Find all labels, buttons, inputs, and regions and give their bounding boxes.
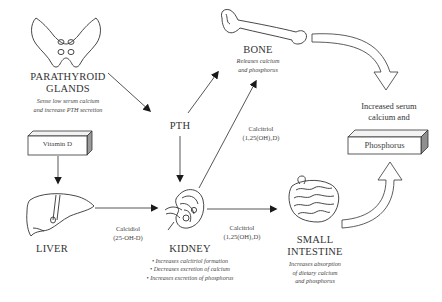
parathyroid-note: Sense low serum calcium and increase PTH… <box>8 97 128 114</box>
outcome-line1: Increased serum <box>344 101 434 112</box>
hollow-arrow-bone-to-outcome <box>312 34 398 90</box>
small-intestine-note-line2: of dietary calcium <box>275 269 355 278</box>
bone-note: Releases calcium and phosphorus <box>220 57 296 74</box>
kidney-title: KIDNEY <box>155 243 225 255</box>
kidney-effect-item: • Decreases excretion of calcium <box>130 265 250 273</box>
edge-label-kidney-to-intestine: Calcitriol (1,25(OH)₂D) <box>213 223 271 241</box>
parathyroid-title: PARATHYROID GLANDS <box>12 71 124 95</box>
kidney-icon <box>165 190 204 230</box>
liver-title: LIVER <box>22 243 82 255</box>
edge-label-line2: (1,25(OH)₂D) <box>232 133 290 142</box>
bone-note-line2: and phosphorus <box>220 66 296 75</box>
edge-label-line1: Calcidiol <box>103 224 153 233</box>
parathyroid-title-line1: PARATHYROID <box>12 71 124 83</box>
edge-label-line2: (1,25(OH)₂D) <box>213 232 271 241</box>
outcome-line2: calcium and <box>344 112 434 123</box>
outcome-text: Increased serum calcium and <box>344 101 434 123</box>
parathyroid-note-line1: Sense low serum calcium <box>8 97 128 106</box>
kidney-effect-item: • Increases excretion of phosphorus <box>130 274 250 282</box>
edge-label-line1: Calcitriol <box>213 223 271 232</box>
kidney-effect-item: • Increases calcitriol formation <box>130 257 250 265</box>
parathyroid-title-line2: GLANDS <box>12 83 124 95</box>
parathyroid-note-line2: and increase PTH secretion <box>8 106 128 115</box>
arrow-pth-to-bone <box>188 72 218 113</box>
vitamin-d-label: Vitamin D <box>28 140 87 148</box>
small-intestine-title: SMALL INTESTINE <box>280 234 350 258</box>
edge-label-line2: (25-OH-D) <box>103 233 153 242</box>
small-intestine-note-line3: and phosphorus <box>275 277 355 286</box>
kidney-effects-list: • Increases calcitriol formation • Decre… <box>130 257 250 282</box>
bone-note-line1: Releases calcium <box>220 57 296 66</box>
phosphorus-label: Phosphorus <box>348 140 421 150</box>
small-intestine-title-line1: SMALL <box>280 234 350 246</box>
hollow-arrow-intestine-to-outcome <box>342 162 402 228</box>
pth-label: PTH <box>160 120 200 132</box>
edge-label-line1: Calcitriol <box>232 124 290 133</box>
small-intestine-title-line2: INTESTINE <box>280 246 350 258</box>
small-intestine-note: Increases absorption of dietary calcium … <box>275 260 355 286</box>
edge-label-kidney-to-bone: Calcitriol (1,25(OH)₂D) <box>232 124 290 142</box>
liver-icon <box>27 194 94 236</box>
parathyroid-gland-icon <box>32 18 101 67</box>
small-intestine-icon <box>289 176 339 222</box>
edge-label-liver-to-kidney: Calcidiol (25-OH-D) <box>103 224 153 242</box>
small-intestine-note-line1: Increases absorption <box>275 260 355 269</box>
bone-title: BONE <box>228 44 288 56</box>
bone-icon <box>221 9 306 44</box>
